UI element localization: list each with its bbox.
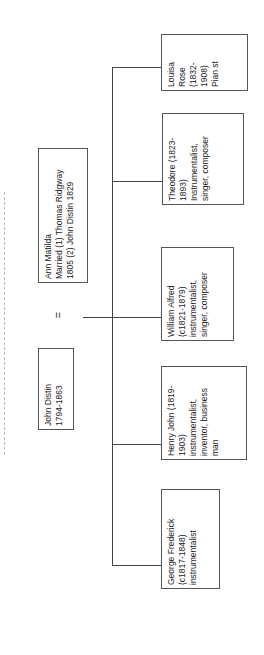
branch-louisa <box>112 67 161 68</box>
child-line: (1832- <box>188 40 199 87</box>
dashed-guide-line <box>4 192 5 455</box>
marriage-descent-line <box>83 317 161 318</box>
child-line: Louisa <box>166 40 177 87</box>
child-line: 1903) <box>177 372 188 456</box>
child-line: George Frederick <box>166 495 177 585</box>
child-line: instrumentalist <box>188 495 199 585</box>
marriage-symbol: = <box>52 312 64 318</box>
child-line: (c1821-1879) <box>177 253 188 337</box>
mother-marriage-1: Married (1) Thomas Ridgway <box>54 154 65 279</box>
child-line: Henry John (1819- <box>166 372 177 456</box>
mother-box: Ann Matilda Married (1) Thomas Ridgway 1… <box>38 148 88 283</box>
child-box-henry: Henry John (1819- 1903) instrumentalist,… <box>161 366 247 460</box>
child-line: Rose <box>177 40 188 87</box>
child-line: 1893) <box>178 119 189 201</box>
child-line: man <box>210 372 221 456</box>
child-line: Theodore (1823- <box>167 119 178 201</box>
branch-theodore <box>112 181 162 182</box>
mother-marriage-2: 1805 (2) John Distin 1829 <box>65 154 76 279</box>
child-line: instrumentalist, <box>188 253 199 337</box>
father-name: John Distin <box>43 354 54 426</box>
branch-henry <box>112 444 161 445</box>
child-line: William Alfred <box>166 253 177 337</box>
child-box-william: William Alfred (c1821-1879) instrumental… <box>161 247 234 341</box>
child-line: inventor, business <box>199 372 210 456</box>
sibling-bar <box>112 67 113 566</box>
child-box-theodore: Theodore (1823- 1893) Instrumentalist, s… <box>162 113 244 205</box>
mother-name: Ann Matilda <box>43 154 54 279</box>
child-line: 1908) <box>199 40 210 87</box>
child-line: Instrumentalist, <box>189 119 200 201</box>
child-line: singer, composer <box>199 253 210 337</box>
father-dates: 1794-1863 <box>54 354 65 426</box>
child-line: (c1817-1848) <box>177 495 188 585</box>
father-box: John Distin 1794-1863 <box>38 348 74 430</box>
branch-george <box>112 565 161 566</box>
child-box-louisa: Louisa Rose (1832- 1908) Pian st <box>161 34 248 91</box>
child-line: singer, composer <box>200 119 211 201</box>
child-line: instrumentalist, <box>188 372 199 456</box>
child-line: Pian st <box>210 40 221 87</box>
child-box-george: George Frederick (c1817-1848) instrument… <box>161 489 220 589</box>
